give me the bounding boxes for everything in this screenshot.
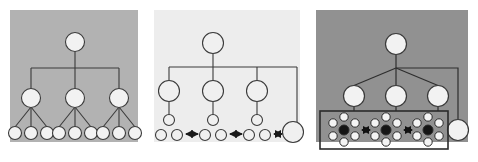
cluster-satellite-node — [424, 113, 432, 121]
cluster-satellite-node — [371, 132, 379, 140]
cluster-satellite-node — [382, 138, 390, 146]
cluster-satellite-node — [329, 132, 337, 140]
cluster-center-node — [423, 125, 433, 135]
figure-root — [0, 0, 478, 162]
cluster-satellite-node — [351, 132, 359, 140]
node-mid — [344, 86, 365, 107]
node-root — [386, 34, 407, 55]
cluster-satellite-node — [340, 138, 348, 146]
cluster-satellite-node — [413, 132, 421, 140]
cluster-satellite-node — [340, 113, 348, 121]
cluster-satellite-node — [393, 132, 401, 140]
cluster-satellite-node — [382, 113, 390, 121]
panel-right-canvas — [0, 0, 478, 162]
node-side — [448, 120, 469, 141]
cluster-center-node — [381, 125, 391, 135]
cluster-satellite-node — [435, 132, 443, 140]
node-mid — [428, 86, 449, 107]
cluster-satellite-node — [371, 119, 379, 127]
node-mid — [386, 86, 407, 107]
cluster-satellite-node — [424, 138, 432, 146]
cluster-satellite-node — [329, 119, 337, 127]
cluster-satellite-node — [413, 119, 421, 127]
cluster-satellite-node — [351, 119, 359, 127]
cluster-satellite-node — [393, 119, 401, 127]
cluster-center-node — [339, 125, 349, 135]
cluster-satellite-node — [435, 119, 443, 127]
